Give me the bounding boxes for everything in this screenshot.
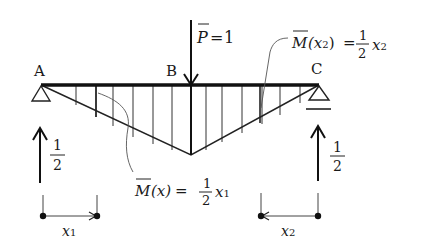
svg-text:P: P bbox=[196, 28, 208, 47]
dimension-x1: x1 bbox=[40, 195, 100, 239]
dimension-x2: x2 bbox=[258, 193, 321, 239]
svg-text:1: 1 bbox=[359, 28, 367, 43]
moment-left-label: M (x) = 1 2 x1 bbox=[134, 176, 230, 208]
svg-text:1: 1 bbox=[333, 139, 342, 155]
moment-diagram-outline bbox=[41, 85, 319, 155]
svg-text:x1: x1 bbox=[62, 223, 76, 239]
svg-text:x1: x1 bbox=[215, 183, 230, 201]
svg-text:=: = bbox=[210, 28, 223, 47]
svg-text:2: 2 bbox=[53, 157, 62, 173]
node-label-a: A bbox=[33, 62, 45, 80]
svg-text:x2: x2 bbox=[281, 223, 295, 239]
svg-text:=: = bbox=[175, 182, 188, 200]
node-label-b: B bbox=[166, 62, 177, 80]
svg-text:M: M bbox=[291, 34, 308, 52]
svg-text:2: 2 bbox=[333, 158, 342, 174]
svg-text:2: 2 bbox=[358, 46, 366, 61]
reaction-arrow-right bbox=[311, 126, 325, 181]
reaction-label-left: 1 2 bbox=[50, 137, 65, 173]
load-arrow bbox=[184, 20, 198, 155]
svg-text:1: 1 bbox=[53, 137, 62, 153]
load-label: P = 1 bbox=[196, 24, 234, 47]
svg-text:(x2): (x2) bbox=[308, 34, 335, 52]
svg-text:1: 1 bbox=[203, 176, 211, 191]
svg-text:(x): (x) bbox=[151, 182, 171, 200]
svg-text:=: = bbox=[343, 34, 356, 52]
leader-line-left bbox=[98, 93, 133, 172]
node-label-c: C bbox=[311, 60, 322, 78]
svg-text:2: 2 bbox=[202, 193, 210, 208]
svg-text:x2: x2 bbox=[372, 36, 387, 54]
reaction-arrow-left bbox=[33, 128, 47, 183]
reaction-label-right: 1 2 bbox=[330, 139, 345, 174]
svg-text:1: 1 bbox=[224, 28, 234, 47]
svg-text:M: M bbox=[134, 182, 151, 200]
leader-line-right bbox=[261, 38, 288, 108]
moment-right-label: M (x2) = 1 2 x2 bbox=[291, 28, 387, 61]
beam-diagram: A B C P = 1 M (x2) = 1 2 x2 M (x) = 1 2 … bbox=[0, 0, 425, 246]
